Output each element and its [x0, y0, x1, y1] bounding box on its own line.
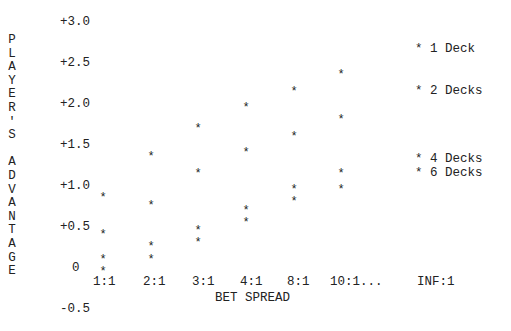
data-point: * [146, 241, 156, 253]
data-point: * [289, 184, 299, 196]
data-point: * [241, 217, 251, 229]
x-tick-label: 4:1 [240, 276, 263, 289]
y-label-letter: P [6, 34, 18, 48]
y-tick-label: 0 [72, 262, 80, 275]
data-point: * [193, 237, 203, 249]
y-label-letter: G [6, 252, 18, 266]
data-point: * [336, 184, 346, 196]
y-tick-label: -0.5 [60, 303, 90, 316]
x-tick-label: 3:1 [192, 276, 215, 289]
y-tick-label: +0.5 [60, 221, 90, 234]
data-point: * [336, 114, 346, 126]
data-point: * [336, 168, 346, 180]
data-point: * [289, 86, 299, 98]
data-point: * [98, 192, 108, 204]
legend-item: * 6 Decks [415, 167, 483, 180]
y-label-letter: A [6, 238, 18, 252]
y-label-letter: D [6, 170, 18, 184]
y-label-letter: T [6, 224, 18, 238]
data-point: * [98, 229, 108, 241]
data-point: * [146, 254, 156, 266]
x-tick-label: 8:1 [287, 276, 310, 289]
y-label-letter: S [6, 129, 18, 143]
y-label-letter: L [6, 48, 18, 62]
data-point: * [98, 266, 108, 278]
y-label-letter [6, 143, 18, 157]
x-tick-label: INF:1 [417, 276, 455, 289]
y-label-letter: A [6, 61, 18, 75]
x-tick-label: 2:1 [143, 276, 166, 289]
data-point: * [193, 123, 203, 135]
y-tick-label: +2.0 [60, 98, 90, 111]
legend-item: * 4 Decks [415, 153, 483, 166]
data-point: * [146, 200, 156, 212]
y-axis-label: PLAYER'S ADVANTAGE [6, 34, 18, 279]
data-point: * [241, 147, 251, 159]
data-point: * [241, 205, 251, 217]
data-point: * [289, 131, 299, 143]
data-point: * [336, 69, 346, 81]
x-tick-label: 10:1... [330, 276, 383, 289]
data-point: * [241, 102, 251, 114]
y-label-letter: R [6, 102, 18, 116]
y-label-letter: E [6, 265, 18, 279]
data-point: * [193, 225, 203, 237]
y-label-letter: V [6, 184, 18, 198]
y-tick-label: +2.5 [60, 57, 90, 70]
y-tick-label: +3.0 [60, 16, 90, 29]
data-point: * [98, 254, 108, 266]
data-point: * [289, 196, 299, 208]
y-tick-label: +1.5 [60, 139, 90, 152]
legend-item: * 1 Deck [415, 43, 475, 56]
x-axis-label: BET SPREAD [215, 292, 290, 305]
y-label-letter: ' [6, 116, 18, 130]
y-label-letter: A [6, 197, 18, 211]
y-label-letter: E [6, 88, 18, 102]
data-point: * [146, 151, 156, 163]
y-label-letter: A [6, 156, 18, 170]
y-label-letter: Y [6, 75, 18, 89]
data-point: * [193, 168, 203, 180]
y-tick-label: +1.0 [60, 180, 90, 193]
y-label-letter: N [6, 211, 18, 225]
legend-item: * 2 Decks [415, 85, 483, 98]
